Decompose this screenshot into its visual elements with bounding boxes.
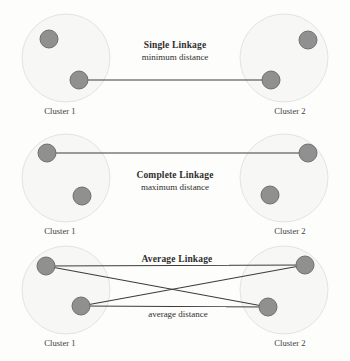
average-distance-label: average distance [148, 309, 208, 319]
cluster-2-point-b-complete [261, 186, 279, 204]
cluster-1-circle-complete [22, 134, 110, 222]
cluster-1-label-single: Cluster 1 [44, 106, 75, 116]
cluster-2-point-a-complete [299, 144, 317, 162]
panel-single-linkage: Single Linkage minimum distance Cluster … [22, 14, 328, 116]
cluster-2-point-a-average [296, 256, 314, 274]
cluster-2-label-average: Cluster 2 [274, 338, 305, 348]
cluster-1-circle-average [22, 246, 110, 334]
panel-complete-linkage: Complete Linkage maximum distance Cluste… [22, 134, 328, 236]
panel-subtitle-single: minimum distance [142, 52, 209, 62]
cluster-1-point-a-complete [38, 144, 56, 162]
panel-average-linkage: Average Linkage average distance Cluster… [22, 246, 328, 348]
cluster-1-label-average: Cluster 1 [44, 338, 75, 348]
cluster-2-point-b-single [262, 71, 280, 89]
panel-title-average: Average Linkage [142, 254, 213, 264]
cluster-2-circle-single [240, 14, 328, 102]
panel-subtitle-complete: maximum distance [141, 182, 209, 192]
cluster-2-point-a-single [299, 31, 317, 49]
panel-title-single: Single Linkage [144, 40, 207, 50]
cluster-2-point-b-average [259, 298, 277, 316]
cluster-1-point-a-single [40, 30, 58, 48]
cluster-2-label-single: Cluster 2 [274, 106, 305, 116]
cluster-1-label-complete: Cluster 1 [44, 226, 75, 236]
cluster-1-point-a-average [37, 257, 55, 275]
cluster-2-circle-average [240, 246, 328, 334]
cluster-1-point-b-single [70, 71, 88, 89]
cluster-2-label-complete: Cluster 2 [274, 226, 305, 236]
panel-title-complete: Complete Linkage [136, 170, 213, 180]
cluster-1-circle-single [22, 14, 110, 102]
cluster-1-point-b-complete [73, 187, 91, 205]
linkage-diagram-canvas: Single Linkage minimum distance Cluster … [0, 0, 350, 361]
cluster-1-point-b-average [72, 297, 90, 315]
clustering-linkage-figure: Single Linkage minimum distance Cluster … [0, 0, 350, 361]
average-connector-a2-b2 [81, 306, 268, 307]
